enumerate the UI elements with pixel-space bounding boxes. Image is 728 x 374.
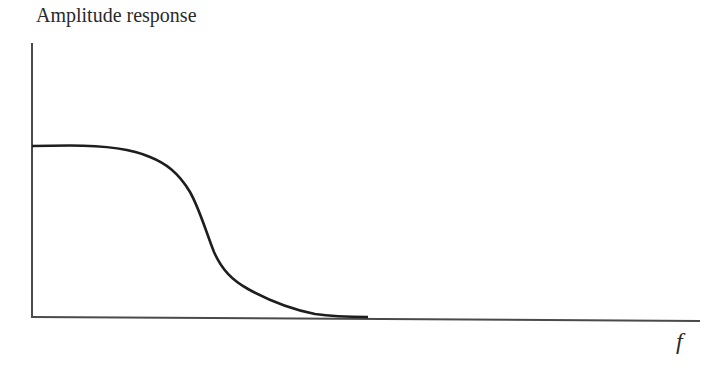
response-curve — [32, 146, 368, 318]
y-axis-label: Amplitude response — [36, 4, 197, 27]
x-axis-label: f — [676, 328, 683, 355]
amplitude-response-figure: Amplitude response f — [0, 0, 728, 374]
chart-canvas — [0, 0, 728, 374]
